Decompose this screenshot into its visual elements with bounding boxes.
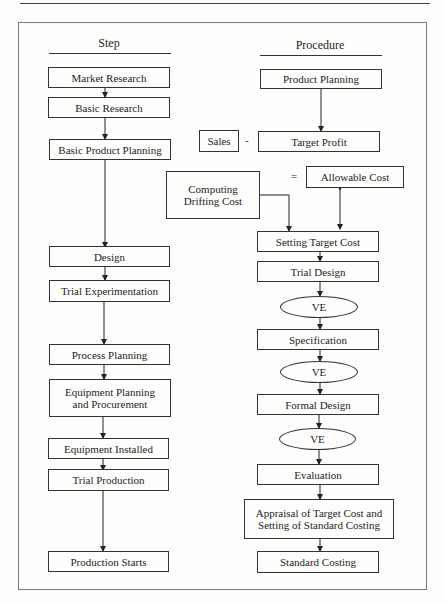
proc-formal-design: Formal Design — [257, 394, 379, 415]
step-process-planning: Process Planning — [49, 344, 170, 365]
step-production-starts: Production Starts — [48, 551, 169, 572]
minus-operator: - — [245, 134, 249, 146]
proc-appraisal: Appraisal of Target Cost and Setting of … — [244, 499, 394, 539]
proc-allowable-cost: Allowable Cost — [306, 166, 404, 188]
step-trial-production: Trial Production — [48, 469, 169, 491]
proc-specification: Specification — [257, 329, 379, 350]
equals-operator: = — [291, 170, 297, 182]
proc-trial-design: Trial Design — [257, 261, 379, 282]
proc-ve-1: VE — [280, 296, 358, 318]
step-trial-experimentation: Trial Experimentation — [49, 280, 170, 302]
proc-target-profit: Target Profit — [258, 131, 380, 152]
step-basic-research: Basic Research — [48, 97, 170, 118]
step-equipment-installed: Equipment Installed — [48, 438, 169, 459]
proc-computing-drifting-cost: Computing Drifting Cost — [166, 171, 260, 219]
proc-standard-costing: Standard Costing — [257, 551, 379, 573]
proc-evaluation: Evaluation — [257, 464, 379, 485]
proc-ve-3: VE — [279, 428, 356, 450]
proc-ve-2: VE — [280, 361, 358, 383]
step-basic-product-planning: Basic Product Planning — [49, 139, 171, 160]
step-market-research: Market Research — [48, 67, 170, 88]
proc-sales: Sales — [199, 130, 239, 152]
step-equipment-planning: Equipment Planning and Procurement — [49, 379, 171, 417]
proc-setting-target-cost: Setting Target Cost — [257, 231, 379, 252]
step-design: Design — [49, 246, 170, 267]
proc-product-planning: Product Planning — [260, 69, 382, 89]
